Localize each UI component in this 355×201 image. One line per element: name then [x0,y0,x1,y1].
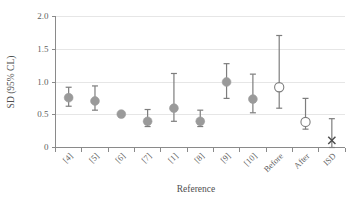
marker-filled-circle [248,95,257,104]
x-tick-label-7: [7] [139,151,153,165]
y-tick-label-1.0: 1.0 [37,77,49,87]
data-point-After [301,98,310,129]
data-point-ISD [328,119,335,148]
scatter-plot-svg: 00.51.01.52.0 [4][5][6][7][1][8][9][10]B… [0,0,355,201]
y-tick-label-2.0: 2.0 [37,11,49,21]
data-point-4 [64,87,73,106]
data-point-7 [143,110,152,127]
data-series-group [64,35,335,147]
chart-figure: 00.51.01.52.0 [4][5][6][7][1][8][9][10]B… [0,0,355,201]
x-tick-label-8: [8] [192,151,206,165]
data-point-1 [170,73,179,121]
x-tick-label-1: [1] [166,151,180,165]
data-point-6 [117,110,126,119]
x-tick-label-ISD: ISD [321,151,338,168]
data-point-10 [248,74,257,113]
data-point-8 [196,110,205,126]
x-axis-title: Reference [177,184,216,194]
marker-filled-circle [196,117,205,126]
y-axis-title: SD (95% CL) [6,56,17,109]
x-tick-label-4: [4] [60,151,74,165]
y-tick-label-0.5: 0.5 [37,109,49,119]
marker-filled-circle [143,117,152,126]
y-tick-label-0: 0 [44,142,49,152]
data-point-5 [91,86,100,110]
x-tick-label-After: After [292,151,312,171]
x-tick-label-6: [6] [113,151,127,165]
marker-filled-circle [64,93,73,102]
x-tick-label-Before: Before [262,151,286,175]
data-point-9 [222,64,231,99]
marker-filled-circle [222,78,231,87]
y-axis-tick-group [52,17,56,148]
y-tick-label-1.5: 1.5 [37,44,49,54]
marker-filled-circle [91,97,100,106]
x-axis-tick-group [56,148,346,152]
marker-open-circle [275,83,284,92]
x-tick-label-10: [10] [242,151,259,168]
marker-open-circle [301,117,310,126]
x-tick-label-5: [5] [87,151,101,165]
data-point-Before [275,35,284,108]
marker-filled-circle [170,104,179,113]
y-tick-label-group: 00.51.01.52.0 [37,11,49,152]
x-tick-label-9: [9] [218,151,232,165]
marker-filled-circle [117,110,126,119]
x-tick-label-group: [4][5][6][7][1][8][9][10]BeforeAfterISD [60,151,337,175]
